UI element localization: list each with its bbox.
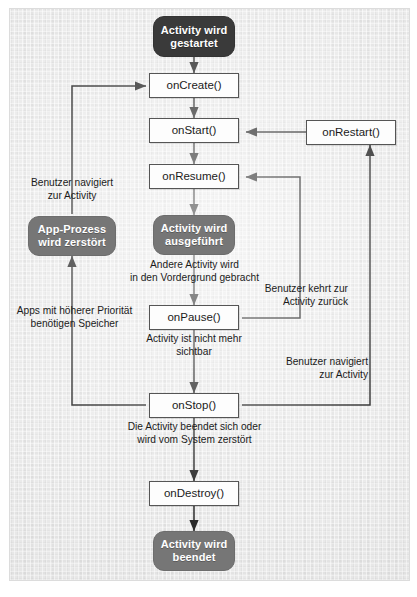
diagram-panel: Activity wird gestartet onCreate() onSta… — [9, 8, 410, 581]
label-user-navigates-to-activity-left: Benutzer navigiert zur Activity — [16, 177, 128, 203]
label-user-returns-to-activity: Benutzer kehrt zur Activity zurück — [238, 283, 348, 309]
node-onpause[interactable]: onPause() — [149, 305, 239, 330]
node-activity-finished-line1: Activity wird — [161, 538, 228, 550]
label-user-returns-line2: Activity zurück — [283, 296, 348, 307]
figure-page: Activity wird gestartet onCreate() onSta… — [0, 0, 417, 597]
node-activity-started[interactable]: Activity wird gestartet — [153, 16, 235, 57]
label-other-activity-foreground-line2: in den Vordergrund gebracht — [130, 272, 259, 283]
label-finishes-or-destroyed-line2: wird vom System zerstört — [137, 434, 251, 445]
label-priority-apps-line2: benötigen Speicher — [31, 318, 119, 329]
node-activity-started-line1: Activity wird — [161, 24, 228, 36]
node-app-process-destroyed-line2: wird zerstört — [38, 236, 105, 248]
node-oncreate[interactable]: onCreate() — [149, 73, 239, 98]
node-oncreate-label: onCreate() — [167, 79, 222, 93]
node-activity-running[interactable]: Activity wird ausgeführt — [153, 215, 235, 255]
label-priority-apps-line1: Apps mit höherer Priorität — [17, 305, 133, 316]
label-activity-no-longer-visible: Activity ist nicht mehr sichtbar — [124, 333, 264, 359]
node-ondestroy[interactable]: onDestroy() — [149, 481, 239, 506]
node-activity-finished[interactable]: Activity wird beendet — [153, 531, 235, 571]
node-onstop-label: onStop() — [172, 399, 216, 413]
label-no-longer-visible-line1: Activity ist nicht mehr — [146, 333, 242, 344]
node-onpause-label: onPause() — [167, 311, 220, 325]
node-onstart[interactable]: onStart() — [149, 118, 239, 143]
node-onresume[interactable]: onResume() — [149, 164, 239, 189]
label-user-navigates-right-line2: zur Activity — [319, 369, 368, 380]
node-onstart-label: onStart() — [172, 124, 217, 138]
node-onstop[interactable]: onStop() — [149, 393, 239, 418]
label-user-navigates-right-line1: Benutzer navigiert — [286, 356, 368, 367]
label-finishes-or-destroyed-line1: Die Activity beendet sich oder — [128, 421, 262, 432]
node-onrestart-label: onRestart() — [322, 126, 380, 140]
node-activity-started-line2: gestartet — [170, 37, 217, 49]
label-user-returns-line1: Benutzer kehrt zur — [265, 283, 348, 294]
node-app-process-destroyed[interactable]: App-Prozess wird zerstört — [28, 216, 116, 256]
label-activity-finishes-or-destroyed: Die Activity beendet sich oder wird vom … — [99, 421, 290, 447]
label-user-navigates-left-line2: zur Activity — [48, 190, 97, 201]
node-activity-running-line2: ausgeführt — [165, 235, 223, 247]
label-other-activity-foreground-line1: Andere Activity wird — [150, 259, 239, 270]
label-user-navigates-to-activity-right: Benutzer navigiert zur Activity — [258, 356, 368, 382]
node-onrestart[interactable]: onRestart() — [306, 120, 396, 145]
node-onresume-label: onResume() — [162, 170, 225, 184]
label-other-activity-foreground: Andere Activity wird in den Vordergrund … — [106, 259, 283, 285]
label-user-navigates-left-line1: Benutzer navigiert — [31, 177, 113, 188]
label-no-longer-visible-line2: sichtbar — [176, 346, 212, 357]
label-higher-priority-apps-need-memory: Apps mit höherer Priorität benötigen Spe… — [10, 305, 139, 331]
node-app-process-destroyed-line1: App-Prozess — [38, 223, 106, 235]
node-activity-finished-line2: beendet — [173, 551, 216, 563]
node-activity-running-line1: Activity wird — [161, 222, 228, 234]
node-ondestroy-label: onDestroy() — [164, 487, 224, 501]
